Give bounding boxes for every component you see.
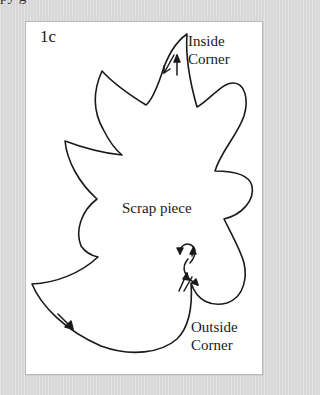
- scrap-piece-label: Scrap piece: [122, 199, 192, 217]
- scrap-piece-outline: [32, 34, 252, 352]
- inside-corner-line1: Inside: [188, 32, 230, 50]
- outside-corner-line2: Corner: [191, 336, 238, 354]
- cropped-caption-text: py g: [0, 0, 277, 4]
- inside-corner-line2: Corner: [188, 50, 230, 68]
- outside-corner-label: Outside Corner: [191, 318, 238, 354]
- inside-corner-label: Inside Corner: [188, 32, 230, 68]
- figure-panel: 1c: [25, 21, 263, 375]
- inside-corner-up-arrow: [174, 55, 180, 75]
- outside-corner-line1: Outside: [191, 318, 238, 336]
- outside-corner-loop-arrows: [177, 244, 198, 291]
